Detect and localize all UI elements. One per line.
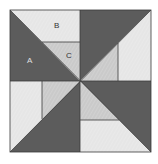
label-b: B: [54, 21, 59, 30]
label-c: C: [66, 51, 72, 60]
quilt-block-diagram: A B C: [0, 0, 158, 164]
label-a: A: [27, 56, 33, 65]
